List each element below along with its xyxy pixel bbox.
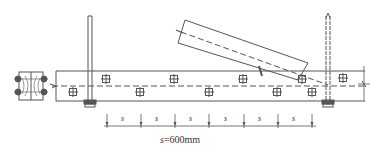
end-clamp-section [14,72,48,100]
dimension-label-2: s [155,114,158,123]
spacing-value: =600mm [164,134,200,145]
dimension-label-5: s [258,114,261,123]
spacing-caption: s=600mm [160,134,200,145]
beam-elevation-diagram [0,0,381,156]
left-anchor-rod [84,16,96,107]
dimension-label-6: s [292,114,295,123]
dimension-label-4: s [224,114,227,123]
right-anchor-rod [322,13,334,107]
dimension-chain [104,114,316,128]
dimension-label-3: s [189,114,192,123]
bolt-row-bottom [68,87,317,97]
dimension-label-1: s [121,114,124,123]
main-beam [50,71,365,101]
